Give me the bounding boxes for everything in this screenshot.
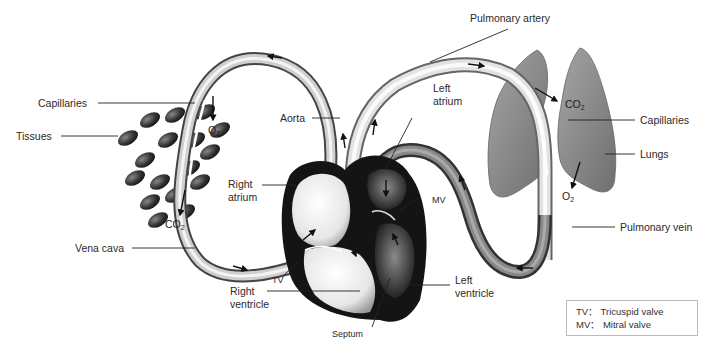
tissue-cell bbox=[122, 167, 148, 189]
label-pulmonary-artery: Pulmonary artery bbox=[470, 12, 550, 25]
gas-o2-lung-sub: 2 bbox=[570, 196, 574, 203]
gas-co2-lung: CO2 bbox=[565, 98, 585, 111]
gas-o2-lung-base: O bbox=[562, 190, 570, 202]
tissue-cell bbox=[137, 191, 163, 213]
right-atrium bbox=[292, 174, 350, 247]
tissue-cell bbox=[147, 171, 173, 193]
legend-mv: MV： Mitral valve bbox=[576, 318, 697, 331]
label-right-atrium: Right atrium bbox=[228, 178, 257, 204]
gas-o2-tissue: O2 bbox=[208, 124, 220, 137]
label-left-atrium-line1: Left bbox=[433, 82, 462, 95]
label-capillaries-lung: Capillaries bbox=[640, 114, 689, 127]
arrow-pulm-artery-up bbox=[373, 120, 375, 135]
label-lungs: Lungs bbox=[640, 148, 669, 161]
label-right-ventricle: Right ventricle bbox=[230, 285, 269, 311]
label-right-atrium-line1: Right bbox=[228, 178, 257, 191]
label-left-ventricle-line2: ventricle bbox=[455, 287, 494, 300]
label-capillaries-tissue: Capillaries bbox=[38, 97, 87, 110]
label-left-atrium: Left atrium bbox=[433, 82, 462, 108]
label-mv: MV bbox=[432, 194, 446, 207]
legend-tv: TV： Tricuspid valve bbox=[576, 305, 697, 318]
label-tv: TV bbox=[272, 274, 284, 287]
label-left-ventricle-line1: Left bbox=[455, 274, 494, 287]
label-vena-cava: Vena cava bbox=[75, 242, 124, 255]
circulation-diagram bbox=[0, 0, 708, 348]
gas-co2-lung-base: CO bbox=[565, 98, 581, 110]
label-tissues: Tissues bbox=[16, 130, 52, 143]
abbreviation-legend: TV： Tricuspid valve MV： Mitral valve bbox=[566, 300, 698, 336]
gas-o2-tissue-base: O bbox=[208, 124, 216, 136]
tissue-cell bbox=[115, 127, 141, 149]
label-right-ventricle-line2: ventricle bbox=[230, 298, 269, 311]
heart bbox=[282, 156, 427, 322]
arrow-aorta-up bbox=[343, 134, 345, 148]
label-left-atrium-line2: atrium bbox=[433, 95, 462, 108]
gas-o2-lung: O2 bbox=[562, 190, 574, 203]
label-right-atrium-line2: atrium bbox=[228, 191, 257, 204]
tissue-cell bbox=[137, 109, 163, 131]
gas-co2-tissue-sub: 2 bbox=[181, 224, 185, 231]
gas-o2-tissue-sub: 2 bbox=[216, 130, 220, 137]
label-right-ventricle-line1: Right bbox=[230, 285, 269, 298]
label-septum: Septum bbox=[332, 328, 363, 341]
label-left-ventricle: Left ventricle bbox=[455, 274, 494, 300]
tissue-cell bbox=[197, 141, 223, 163]
label-pulmonary-vein: Pulmonary vein bbox=[620, 221, 692, 234]
tissue-cell bbox=[155, 129, 181, 151]
gas-co2-tissue: CO2 bbox=[165, 218, 185, 231]
tissue-cell bbox=[132, 149, 158, 171]
gas-co2-tissue-base: CO bbox=[165, 218, 181, 230]
gas-co2-lung-sub: 2 bbox=[581, 104, 585, 111]
label-aorta: Aorta bbox=[280, 112, 305, 125]
